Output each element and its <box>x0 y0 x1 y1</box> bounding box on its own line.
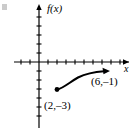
end-point-label: (6,–1) <box>91 76 118 87</box>
y-axis-label: f(x) <box>47 3 62 14</box>
y-axis-arrowhead <box>36 4 41 10</box>
coordinate-plane-svg <box>0 0 134 133</box>
curve-start-point-dot <box>55 87 60 92</box>
curve-arrowhead <box>103 68 111 75</box>
x-axis-label: x <box>124 64 128 74</box>
function-graph-figure: f(x) x (2,–3) (6,–1) <box>0 0 134 133</box>
start-point-label: (2,–3) <box>44 100 71 111</box>
